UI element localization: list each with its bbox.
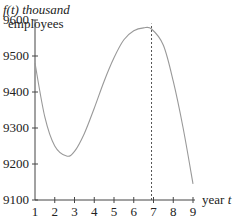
y-tick-label: 9400	[3, 84, 29, 99]
x-tick-label: 5	[111, 204, 118, 219]
x-tick-label: 4	[91, 204, 98, 219]
y-tick-label: 9300	[3, 120, 29, 135]
y-tick-label: 9500	[3, 48, 29, 63]
y-tick-label: 9100	[3, 192, 29, 207]
line-chart: 910092009300940095009600123456789year t	[0, 0, 235, 224]
x-axis-label: year t	[202, 192, 232, 207]
x-tick-label: 7	[150, 204, 157, 219]
x-tick-label: 8	[170, 204, 177, 219]
x-tick-label: 2	[52, 204, 59, 219]
y-tick-label: 9200	[3, 156, 29, 171]
x-tick-label: 6	[131, 204, 138, 219]
y-tick-label: 9600	[3, 12, 29, 27]
x-tick-label: 3	[71, 204, 78, 219]
x-tick-label: 1	[32, 204, 39, 219]
series-line-f-t	[35, 27, 193, 184]
x-tick-label: 9	[190, 204, 197, 219]
